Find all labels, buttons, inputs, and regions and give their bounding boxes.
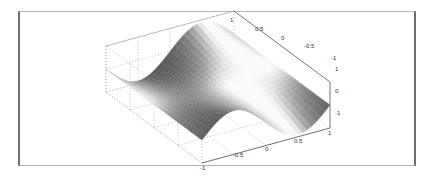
z-tick-label: 0 [335, 88, 339, 94]
y-tick-label: 1 [230, 17, 234, 23]
z-tick-label: 1 [335, 66, 339, 72]
x-tick-label: 0.5 [294, 138, 303, 144]
surface-plot: -1 -0.5 0 0.5 1 1 0.5 0 -0.5 -1 1 0 -1 [0, 0, 432, 180]
x-tick-label: -1 [200, 165, 206, 171]
z-tick-label: -1 [335, 110, 341, 116]
y-tick-label: -1 [331, 55, 337, 61]
y-tick-label: -0.5 [304, 43, 315, 49]
x-tick-label: 0 [265, 146, 269, 152]
y-tick-label: 0 [281, 35, 285, 41]
y-tick-label: 0.5 [255, 26, 264, 32]
surface-mesh [106, 21, 330, 140]
x-tick-label: -0.5 [233, 152, 244, 158]
x-tick-label: 1 [328, 130, 332, 136]
